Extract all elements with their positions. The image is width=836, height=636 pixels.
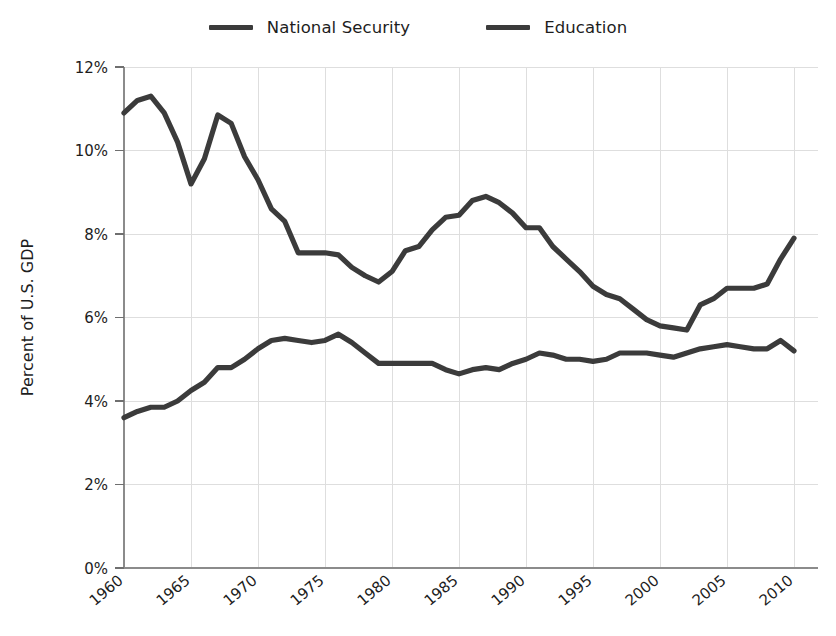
- y-tick-label: 12%: [75, 59, 108, 77]
- x-tick-label: 1980: [354, 571, 395, 609]
- y-tick-label: 0%: [84, 560, 108, 578]
- x-tick-label: 1990: [488, 571, 529, 609]
- line-chart-plot: 0%2%4%6%8%10%12% 19601965197019751980198…: [0, 0, 836, 636]
- y-gridlines: [124, 67, 818, 568]
- y-tick-label: 8%: [84, 226, 108, 244]
- x-tick-label: 1995: [555, 571, 596, 609]
- y-tickmarks: [115, 67, 124, 568]
- x-tick-label: 1970: [220, 571, 261, 609]
- x-tick-label: 1965: [153, 571, 194, 609]
- y-axis-title: Percent of U.S. GDP: [18, 239, 37, 397]
- y-tick-label: 6%: [84, 309, 108, 327]
- x-tick-label: 2010: [756, 571, 797, 609]
- y-tick-label: 4%: [84, 393, 108, 411]
- chart-container: National Security Education 0%2%4%6%8%10…: [0, 0, 836, 636]
- y-tick-label: 10%: [75, 142, 108, 160]
- x-tick-labels: 1960196519701975198019851990199520002005…: [86, 571, 797, 609]
- x-tick-label: 1975: [287, 571, 328, 609]
- x-tick-label: 2000: [622, 571, 663, 609]
- y-tick-labels: 0%2%4%6%8%10%12%: [75, 59, 108, 578]
- y-tick-label: 2%: [84, 476, 108, 494]
- x-tick-label: 1985: [421, 571, 462, 609]
- x-tick-label: 2005: [689, 571, 730, 609]
